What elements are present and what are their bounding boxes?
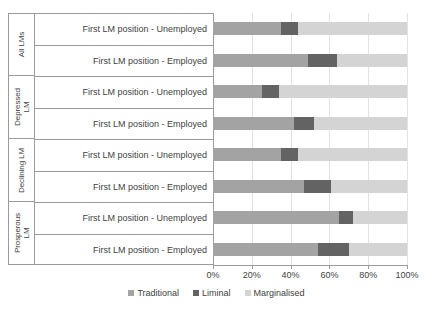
bar-row (213, 54, 407, 67)
category-label: First LM position - Employed (35, 46, 213, 78)
legend: Traditional Liminal Marginalised (0, 288, 433, 298)
legend-swatch-icon (193, 290, 199, 296)
x-axis-line (213, 265, 407, 266)
bar-segment-traditional (213, 85, 262, 98)
stacked-bar-chart: All LMs Depressed LM Declining LM Prospe… (0, 0, 433, 313)
bar-segment-liminal (281, 22, 298, 35)
group-declining-lm: Declining LM (9, 139, 34, 202)
bar-row (213, 148, 407, 161)
bar-segment-marginalised (298, 148, 407, 161)
x-tick-label: 60% (320, 270, 338, 280)
group-prosperous-lm: Prosperous LM (9, 202, 34, 265)
bar-segment-marginalised (337, 54, 407, 67)
x-tick (407, 265, 408, 269)
x-tick (368, 265, 369, 269)
bar-segment-marginalised (279, 85, 407, 98)
group-all-lms: All LMs (9, 13, 34, 76)
bar-row (213, 243, 407, 256)
bar-segment-traditional (213, 180, 304, 193)
bar-segment-liminal (281, 148, 298, 161)
x-tick-label: 40% (282, 270, 300, 280)
bar-segment-traditional (213, 243, 318, 256)
bar-segment-liminal (262, 85, 279, 98)
x-tick (252, 265, 253, 269)
x-tick-label: 0% (206, 270, 219, 280)
gridline (407, 13, 408, 265)
category-label: First LM position - Unemployed (35, 77, 213, 109)
group-label: Declining LM (17, 147, 26, 192)
bar-row (213, 85, 407, 98)
group-axis: All LMs Depressed LM Declining LM Prospe… (8, 13, 34, 265)
bar-segment-traditional (213, 22, 281, 35)
bar-segment-liminal (294, 117, 313, 130)
bar-row (213, 117, 407, 130)
category-label: First LM position - Employed (35, 235, 213, 267)
legend-swatch-icon (128, 290, 134, 296)
category-label: First LM position - Unemployed (35, 140, 213, 172)
category-label: First LM position - Employed (35, 172, 213, 204)
category-axis: First LM position - Unemployed First LM … (34, 13, 213, 265)
legend-label: Marginalised (254, 288, 305, 298)
bar-segment-liminal (318, 243, 349, 256)
bar-segment-liminal (308, 54, 337, 67)
legend-label: Traditional (137, 288, 179, 298)
x-tick (329, 265, 330, 269)
bar-row (213, 180, 407, 193)
x-tick-label: 20% (243, 270, 261, 280)
x-tick-label: 80% (359, 270, 377, 280)
bars-container (213, 13, 407, 265)
legend-item-traditional[interactable]: Traditional (128, 288, 179, 298)
bar-segment-traditional (213, 148, 281, 161)
legend-item-liminal[interactable]: Liminal (193, 288, 231, 298)
x-tick (213, 265, 214, 269)
x-tick (291, 265, 292, 269)
legend-item-marginalised[interactable]: Marginalised (245, 288, 305, 298)
group-depressed-lm: Depressed LM (9, 76, 34, 139)
bar-segment-marginalised (314, 117, 407, 130)
bar-segment-marginalised (349, 243, 407, 256)
bar-segment-marginalised (353, 211, 407, 224)
bar-segment-traditional (213, 54, 308, 67)
group-label: All LMs (17, 32, 26, 58)
group-label: Depressed LM (13, 88, 31, 126)
category-label: First LM position - Unemployed (35, 203, 213, 235)
category-label: First LM position - Unemployed (35, 14, 213, 46)
category-label: First LM position - Employed (35, 109, 213, 141)
plot-area (213, 13, 407, 265)
legend-label: Liminal (202, 288, 231, 298)
bar-row (213, 22, 407, 35)
bar-segment-liminal (304, 180, 331, 193)
bar-segment-liminal (339, 211, 353, 224)
group-label: Prosperous LM (13, 213, 31, 253)
bar-row (213, 211, 407, 224)
legend-swatch-icon (245, 290, 251, 296)
bar-segment-traditional (213, 117, 294, 130)
bar-segment-marginalised (331, 180, 407, 193)
bar-segment-marginalised (298, 22, 407, 35)
x-tick-label: 100% (395, 270, 418, 280)
bar-segment-traditional (213, 211, 339, 224)
